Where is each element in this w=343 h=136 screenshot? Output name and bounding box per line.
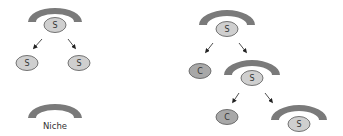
right-panel: S C S C S bbox=[189, 10, 327, 132]
left-panel: S S S Niche bbox=[16, 8, 90, 131]
niche-arc bbox=[28, 104, 82, 118]
stem-cell-daughter: S bbox=[16, 56, 38, 71]
stem-cell-parent: S bbox=[44, 18, 66, 33]
cell-label: C bbox=[197, 67, 203, 76]
stem-cell-parent: S bbox=[216, 22, 238, 37]
cell-label: S bbox=[224, 25, 229, 34]
stem-cell-division-diagram: S S S Niche S C S bbox=[0, 0, 343, 136]
stem-cell-self-renewed: S bbox=[241, 71, 263, 86]
cell-label: C bbox=[224, 113, 230, 122]
division-arrow bbox=[265, 93, 272, 102]
niche-legend-label: Niche bbox=[43, 121, 67, 131]
division-arrow bbox=[68, 39, 75, 48]
cell-label: S bbox=[52, 21, 57, 30]
division-arrow bbox=[206, 43, 213, 52]
division-arrow bbox=[233, 93, 239, 102]
stem-cell-self-renewed: S bbox=[288, 117, 310, 132]
cell-label: S bbox=[296, 120, 301, 129]
stem-cell-daughter: S bbox=[68, 56, 90, 71]
cell-label: S bbox=[249, 74, 254, 83]
committed-cell: C bbox=[216, 110, 238, 125]
niche-legend: Niche bbox=[28, 104, 82, 131]
committed-cell: C bbox=[189, 64, 211, 79]
cell-label: S bbox=[76, 59, 81, 68]
cell-label: S bbox=[24, 59, 29, 68]
division-arrow bbox=[239, 43, 246, 52]
division-arrow bbox=[34, 39, 42, 48]
